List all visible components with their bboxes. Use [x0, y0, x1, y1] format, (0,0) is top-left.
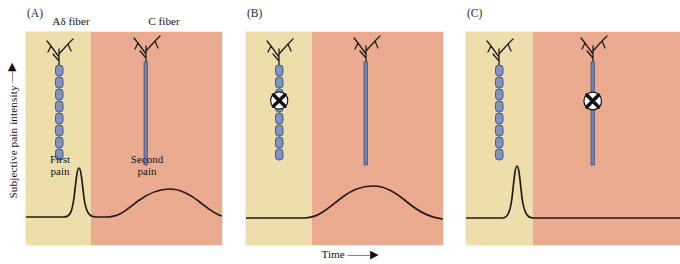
panel-a-neurons: [26, 32, 222, 245]
y-axis: Subjective pain intensity —▶: [0, 32, 26, 246]
second-pain-line1: Second: [121, 154, 173, 166]
pain-fiber-figure: Subjective pain intensity —▶ (A) (B) (C)…: [0, 0, 680, 264]
y-axis-label: Subjective pain intensity —▶: [7, 32, 20, 230]
first-pain-label: First pain: [39, 154, 81, 177]
ad-fiber-myelin-segments: [276, 65, 284, 160]
ad-fiber-heading: Aδ fiber: [28, 15, 114, 27]
x-axis-label: Time ——▶: [275, 248, 425, 261]
x-axis-label-text: Time: [322, 248, 345, 260]
c-fiber-axon: [364, 62, 367, 165]
block-marker-icon: [584, 92, 602, 110]
ad-fiber-myelin-segments: [56, 65, 64, 160]
panel-b-neurons: [246, 32, 443, 245]
c-fiber-axon: [591, 62, 594, 165]
ad-fiber-neuron: [47, 39, 73, 65]
panel-letter-b: (B): [247, 7, 262, 19]
c-fiber-heading: C fiber: [118, 15, 210, 27]
y-axis-arrow-icon: —▶: [5, 62, 18, 82]
panel-c: [466, 32, 680, 245]
c-fiber-neuron: [134, 36, 160, 62]
ad-fiber-neuron: [487, 39, 513, 65]
first-pain-line2: pain: [39, 166, 81, 178]
second-pain-label: Second pain: [121, 154, 173, 177]
ad-fiber-myelin-segments: [496, 65, 504, 160]
panel-b: [246, 32, 443, 245]
second-pain-line2: pain: [121, 166, 173, 178]
panel-c-neurons: [466, 32, 680, 245]
block-marker-icon: [271, 92, 288, 109]
x-axis-arrow-icon: ——▶: [348, 248, 379, 260]
first-pain-line1: First: [39, 154, 81, 166]
panel-c-trace: [466, 166, 680, 218]
panel-b-trace: [246, 186, 443, 219]
panel-a: First pain Second pain: [26, 32, 222, 245]
c-fiber-neuron: [581, 36, 607, 62]
panel-letter-c: (C): [467, 7, 482, 19]
ad-fiber-neuron: [267, 39, 293, 65]
c-fiber-neuron: [354, 36, 380, 62]
y-axis-label-text: Subjective pain intensity: [7, 85, 19, 198]
c-fiber-axon: [144, 62, 147, 165]
